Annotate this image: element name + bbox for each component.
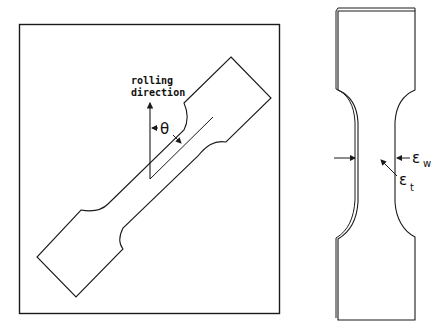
specimen-panel: ε w ε t — [334, 8, 431, 320]
epsilon-t-subscript: t — [410, 182, 414, 193]
specimen-left-thickness — [336, 11, 355, 318]
rolling-label-line1: rolling — [131, 75, 173, 86]
sheet-panel: rolling direction θ — [20, 25, 280, 314]
epsilon-w-subscript: w — [423, 158, 431, 169]
rolling-label-line2: direction — [131, 87, 185, 98]
epsilon-t-symbol: ε — [399, 171, 407, 189]
straight-specimen-outline — [338, 11, 415, 320]
epsilon-w-symbol: ε — [412, 149, 420, 167]
theta-label: θ — [160, 120, 169, 138]
diagram-canvas: rolling direction θ ε w ε t — [0, 0, 448, 331]
